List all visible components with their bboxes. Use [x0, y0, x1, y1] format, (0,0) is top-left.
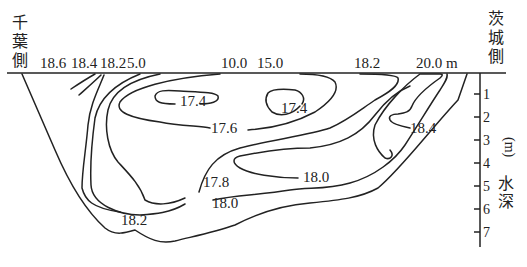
river-cross-section-diagram: 千 葉 側 茨 城 側 18.6 18.4 18.2 5.0 10.0 15.0…: [0, 0, 527, 267]
contour-18-0-inner: [234, 86, 410, 178]
contour-label-18-0-right: 18.0: [303, 169, 329, 185]
depth-tick-label: 7: [483, 225, 490, 240]
top-label: 18.4: [71, 55, 98, 71]
right-bank-char: 側: [488, 47, 504, 66]
contour-label-17-4-right: 17.4: [281, 100, 308, 116]
depth-tick-label: 4: [483, 156, 490, 171]
contour-label-18-2: 18.2: [121, 212, 147, 228]
top-label: 5.0: [127, 55, 146, 71]
depth-axis-title-char: 深: [498, 192, 514, 211]
left-bank-char: 側: [12, 51, 28, 70]
top-labels: 18.6 18.4 18.2 5.0 10.0 15.0 18.2 20.0 m: [40, 55, 458, 71]
contour-18-4-left: [71, 74, 95, 89]
right-bank-label: 茨 城 側: [488, 9, 504, 66]
contour-label-18-4: 18.4: [410, 120, 437, 136]
left-bank-char: 千: [12, 13, 28, 32]
top-label: 18.2: [354, 55, 380, 71]
contour-label-17-8: 17.8: [203, 174, 229, 190]
right-bank-char: 茨: [488, 9, 504, 28]
contour-label-18-0-lower: 18.0: [212, 195, 238, 211]
depth-tick-label: 6: [483, 202, 490, 217]
depth-axis-unit: (m): [501, 137, 517, 158]
depth-tick-label: 3: [483, 133, 490, 148]
contour-label-17-6: 17.6: [211, 120, 238, 136]
right-bank-char: 城: [488, 28, 504, 47]
depth-tick-label: 2: [483, 110, 490, 125]
top-label: 15.0: [257, 55, 283, 71]
left-bank-label: 千 葉 側: [12, 13, 28, 70]
riverbed-outline: [22, 74, 467, 242]
depth-tick-label: 5: [483, 179, 490, 194]
left-bank-char: 葉: [12, 32, 28, 51]
depth-axis-title-char: 水: [498, 174, 514, 193]
contour-17-8: [106, 74, 398, 204]
depth-axis: 1 2 3 4 5 6 7 (m) 水 深: [474, 73, 517, 247]
top-label: 20.0 m: [416, 55, 458, 71]
top-label: 10.0: [221, 55, 247, 71]
top-label: 18.6: [40, 55, 67, 71]
contour-label-17-4-left: 17.4: [180, 93, 207, 109]
top-label: 18.2: [100, 55, 126, 71]
depth-tick-label: 1: [483, 87, 490, 102]
